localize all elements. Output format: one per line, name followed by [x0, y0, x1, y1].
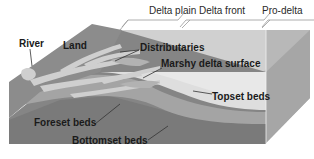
label-land: Land — [63, 40, 87, 51]
zone-label-delta-plain: Delta plain — [149, 5, 196, 16]
label-foreset-beds: Foreset beds — [34, 117, 97, 128]
label-topset-beds: Topset beds — [212, 91, 271, 102]
label-distributaries: Distributaries — [140, 42, 205, 53]
label-bottomset-beds: Bottomset beds — [72, 135, 148, 146]
delta-block-diagram: Delta plain Delta front Pro-delta River … — [0, 0, 314, 159]
label-marshy-delta-surface: Marshy delta surface — [161, 58, 261, 69]
label-river: River — [19, 38, 44, 49]
zone-label-pro-delta: Pro-delta — [262, 5, 303, 16]
zone-label-delta-front: Delta front — [199, 5, 245, 16]
